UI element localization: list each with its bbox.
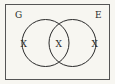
- set-e-label: E: [95, 10, 102, 20]
- region-e-only: X: [92, 39, 99, 49]
- set-g-circle: [22, 20, 69, 67]
- set-g-label: G: [15, 10, 22, 20]
- region-g-only: X: [21, 39, 28, 49]
- venn-diagram: G E X X X: [0, 0, 115, 84]
- region-intersection: X: [56, 39, 63, 49]
